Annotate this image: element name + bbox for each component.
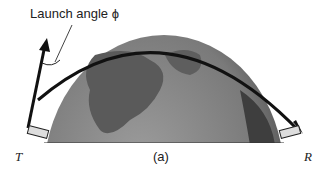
diagram-graphic (0, 0, 328, 173)
receiver-antenna-icon (279, 126, 300, 139)
skywave-diagram: Launch angle ϕ T R (a) (0, 0, 328, 173)
figure-caption: (a) (153, 149, 169, 164)
launch-direction-arrow (28, 45, 45, 128)
launch-angle-label: Launch angle ϕ (30, 6, 119, 21)
receiver-label: R (304, 149, 312, 165)
transmitter-label: T (15, 149, 22, 165)
leader-line (55, 25, 72, 62)
angle-arc (42, 60, 60, 65)
transmitter-antenna-icon (27, 126, 48, 139)
